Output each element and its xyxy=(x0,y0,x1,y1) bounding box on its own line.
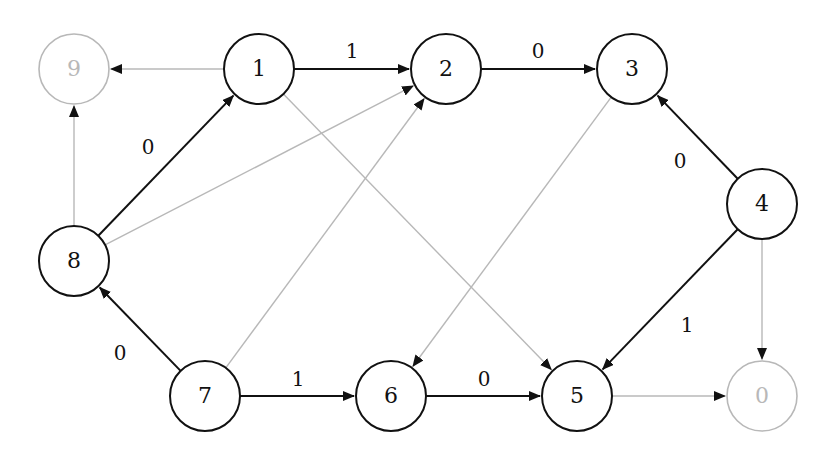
node-label: 6 xyxy=(384,383,398,408)
node-label: 3 xyxy=(625,56,639,81)
edge-1-to-5 xyxy=(283,94,551,369)
node-5: 5 xyxy=(542,361,612,431)
edge-7-to-8 xyxy=(100,288,181,371)
edge-label-7-to-8: 0 xyxy=(114,341,127,365)
node-8: 8 xyxy=(39,226,109,296)
edge-label-6-to-5: 0 xyxy=(478,367,491,391)
edge-4-to-3 xyxy=(658,96,738,179)
node-label: 5 xyxy=(570,383,584,408)
node-6: 6 xyxy=(356,361,426,431)
node-label: 0 xyxy=(755,383,769,408)
edge-label-7-to-6: 1 xyxy=(292,367,305,391)
node-9: 9 xyxy=(39,34,109,104)
edge-3-to-6 xyxy=(413,97,611,366)
node-label: 1 xyxy=(252,56,266,81)
node-7: 7 xyxy=(170,361,240,431)
edge-label-4-to-3: 0 xyxy=(674,149,687,173)
edge-label-8-to-1: 0 xyxy=(142,135,155,159)
edge-8-to-1 xyxy=(98,96,233,236)
node-1: 1 xyxy=(224,34,294,104)
node-label: 8 xyxy=(67,248,81,273)
edges-layer xyxy=(74,69,762,396)
node-label: 2 xyxy=(439,56,453,81)
node-4: 4 xyxy=(727,169,797,239)
node-label: 9 xyxy=(67,56,81,81)
edge-label-1-to-2: 1 xyxy=(346,39,359,63)
node-0: 0 xyxy=(727,361,797,431)
edge-label-2-to-3: 0 xyxy=(532,39,545,63)
edge-4-to-5 xyxy=(603,229,738,369)
node-2: 2 xyxy=(411,34,481,104)
edge-label-4-to-5: 1 xyxy=(681,313,694,337)
edge-7-to-2 xyxy=(226,99,424,368)
edge-8-to-2 xyxy=(105,86,413,245)
directed-graph: 10000101 9123487650 xyxy=(0,0,835,459)
node-3: 3 xyxy=(597,34,667,104)
node-label: 4 xyxy=(755,191,769,216)
node-label: 7 xyxy=(198,383,212,408)
